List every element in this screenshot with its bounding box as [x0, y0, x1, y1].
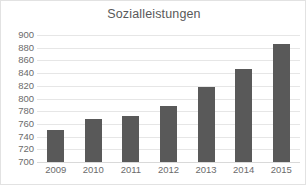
gridline — [37, 162, 300, 163]
y-axis-tick-label: 860 — [18, 56, 34, 66]
bar[interactable] — [122, 116, 139, 162]
x-axis-tick-label: 2011 — [121, 165, 141, 175]
gridline — [37, 60, 300, 61]
y-axis-tick-label: 740 — [18, 132, 34, 142]
gridline — [37, 86, 300, 87]
y-axis-tick-label: 760 — [18, 119, 34, 129]
plot-area — [37, 35, 300, 162]
y-axis-tick-label: 780 — [18, 106, 34, 116]
x-axis-tick-label: 2009 — [45, 165, 66, 175]
bar[interactable] — [47, 130, 64, 162]
y-axis: 900880860840820800780760740720700 — [1, 35, 34, 162]
y-axis-tick-label: 900 — [18, 30, 34, 40]
y-axis-tick-label: 800 — [18, 94, 34, 104]
bar[interactable] — [85, 119, 102, 162]
y-axis-tick-label: 880 — [18, 43, 34, 53]
y-axis-tick-label: 720 — [18, 145, 34, 155]
x-axis-tick-label: 2014 — [233, 165, 254, 175]
y-axis-tick-label: 840 — [18, 68, 34, 78]
x-axis-tick-label: 2013 — [195, 165, 216, 175]
chart-title: Sozialleistungen — [1, 7, 306, 21]
y-axis-tick-label: 700 — [18, 157, 34, 167]
gridline — [37, 99, 300, 100]
x-axis-tick-label: 2012 — [158, 165, 179, 175]
y-axis-tick-label: 820 — [18, 81, 34, 91]
chart-frame: Sozialleistungen 90088086084082080078076… — [0, 0, 306, 185]
bar[interactable] — [160, 106, 177, 163]
gridline — [37, 35, 300, 36]
x-axis: 2009201020112012201320142015 — [37, 165, 300, 181]
bar[interactable] — [273, 44, 290, 162]
x-axis-tick-label: 2015 — [271, 165, 292, 175]
gridline — [37, 73, 300, 74]
bar[interactable] — [198, 87, 215, 162]
gridline — [37, 48, 300, 49]
x-axis-tick-label: 2010 — [83, 165, 104, 175]
bar[interactable] — [235, 69, 252, 162]
